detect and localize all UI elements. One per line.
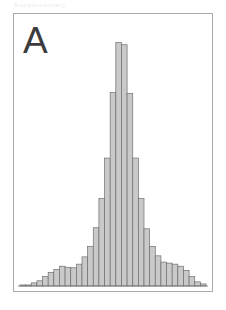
histogram-bar	[195, 282, 201, 286]
histogram-bar	[189, 277, 195, 286]
histogram-bar	[88, 246, 94, 286]
histogram-bar	[37, 281, 43, 286]
histogram-bar	[161, 262, 167, 286]
header-caption: Supplementary	[14, 1, 164, 10]
histogram-bar	[48, 272, 54, 286]
histogram-bar	[138, 199, 144, 286]
histogram-bar	[183, 270, 189, 286]
histogram-bar	[59, 266, 65, 286]
histogram-bar	[121, 45, 127, 286]
histogram-bar	[93, 228, 99, 286]
histogram-bar	[99, 199, 105, 286]
histogram-bar	[178, 266, 184, 286]
histogram-bar	[71, 268, 77, 286]
histogram-bar	[31, 283, 37, 286]
histogram-bar	[167, 263, 173, 286]
histogram-bar	[155, 256, 161, 286]
histogram-bars-group	[20, 43, 206, 286]
histogram-plot-area	[14, 14, 212, 291]
histogram-bar	[127, 94, 133, 286]
histogram-bar	[43, 277, 49, 286]
histogram-bar	[110, 93, 116, 286]
histogram-bar	[172, 264, 178, 286]
histogram-bar	[65, 267, 71, 286]
histogram-bar	[82, 257, 88, 286]
histogram-bar	[150, 246, 156, 286]
figure-panel: A	[13, 13, 213, 292]
histogram-bar	[76, 264, 82, 286]
histogram-bar	[54, 269, 60, 286]
histogram-bar	[105, 158, 111, 286]
histogram-bar	[133, 158, 139, 286]
histogram-bar	[144, 229, 150, 286]
histogram-bar	[116, 43, 122, 286]
histogram-svg	[14, 14, 212, 291]
